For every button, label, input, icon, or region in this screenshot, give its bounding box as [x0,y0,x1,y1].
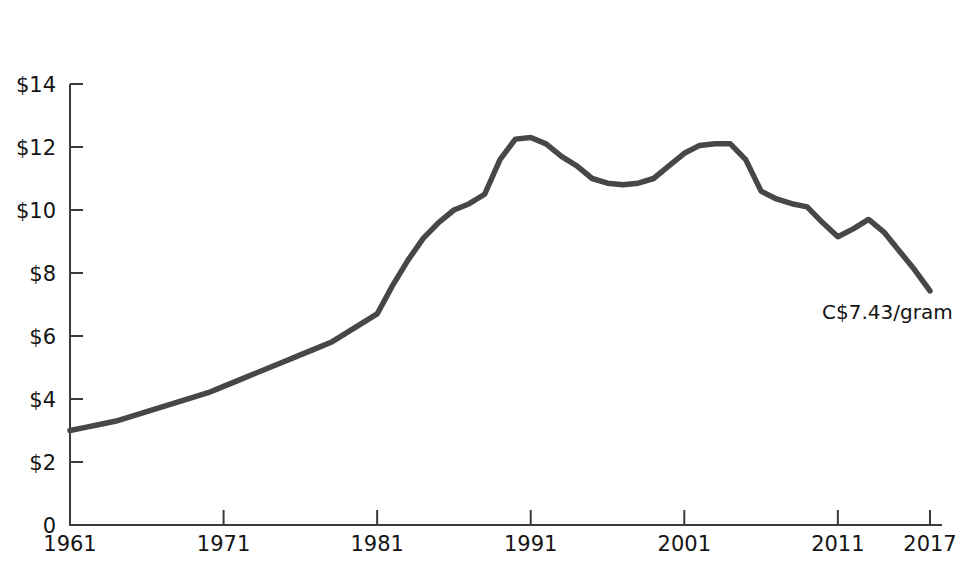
price-line [70,138,930,431]
y-tick-label: $8 [29,262,56,286]
x-tick-label: 2001 [658,532,711,556]
x-tick-label: 1991 [504,532,557,556]
chart-container: 0$2$4$6$8$10$12$14 196119711981199120012… [0,0,970,574]
line-chart: 0$2$4$6$8$10$12$14 196119711981199120012… [0,0,970,574]
y-axis-ticks [70,84,83,525]
y-tick-label: $12 [16,136,56,160]
x-tick-label: 1981 [350,532,403,556]
chart-annotations: C$7.43/gram [822,300,953,324]
end-value-annotation: C$7.43/gram [822,300,953,324]
x-tick-label: 1971 [197,532,250,556]
x-tick-label: 2017 [903,532,956,556]
y-tick-label: $4 [29,388,56,412]
y-axis-tick-labels: 0$2$4$6$8$10$12$14 [16,73,56,538]
data-series-group [70,138,930,431]
x-tick-label: 1961 [43,532,96,556]
y-tick-label: $2 [29,451,56,475]
x-axis-ticks [70,510,930,525]
y-tick-label: $10 [16,199,56,223]
y-tick-label: $14 [16,73,56,97]
x-axis-tick-labels: 1961197119811991200120112017 [43,532,956,556]
y-tick-label: $6 [29,325,56,349]
x-tick-label: 2011 [811,532,864,556]
